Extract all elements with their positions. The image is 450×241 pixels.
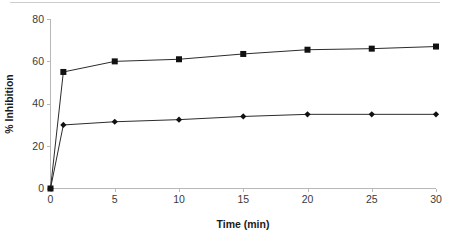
data-point-marker xyxy=(176,56,182,62)
data-point-marker xyxy=(112,119,118,125)
data-point-marker xyxy=(433,111,439,117)
x-axis-tick-marks xyxy=(51,189,437,193)
data-point-marker xyxy=(304,111,310,117)
data-point-marker xyxy=(369,111,375,117)
x-axis-tick-labels: 051015202530 xyxy=(48,193,442,205)
series-layer xyxy=(47,44,439,192)
x-axis-title: Time (min) xyxy=(217,218,270,230)
x-tick-label: 10 xyxy=(173,193,185,205)
series-line xyxy=(51,114,437,188)
data-point-marker xyxy=(240,51,246,57)
x-tick-label: 5 xyxy=(112,193,118,205)
y-axis-tick-labels: 020406080 xyxy=(32,13,44,195)
y-tick-label: 80 xyxy=(32,13,44,25)
data-point-marker xyxy=(176,117,182,123)
data-point-marker xyxy=(305,47,311,53)
y-tick-label: 60 xyxy=(32,55,44,67)
y-tick-label: 20 xyxy=(32,140,44,152)
line-chart: 020406080 051015202530 Time (min) % Inhi… xyxy=(0,0,450,241)
data-point-marker xyxy=(112,58,118,64)
y-axis-tick-marks xyxy=(47,20,51,190)
data-point-marker xyxy=(60,122,66,128)
chart-container: 020406080 051015202530 Time (min) % Inhi… xyxy=(0,0,450,241)
data-point-marker xyxy=(240,113,246,119)
x-tick-label: 30 xyxy=(430,193,442,205)
data-point-marker xyxy=(60,69,66,75)
x-tick-label: 20 xyxy=(302,193,314,205)
y-tick-label: 0 xyxy=(38,182,44,194)
y-axis-title: % Inhibition xyxy=(3,74,15,134)
data-point-marker xyxy=(433,44,439,50)
x-tick-label: 0 xyxy=(48,193,54,205)
y-tick-label: 40 xyxy=(32,97,44,109)
x-tick-label: 15 xyxy=(237,193,249,205)
x-tick-label: 25 xyxy=(366,193,378,205)
series-diamond xyxy=(47,111,439,191)
data-point-marker xyxy=(369,46,375,52)
